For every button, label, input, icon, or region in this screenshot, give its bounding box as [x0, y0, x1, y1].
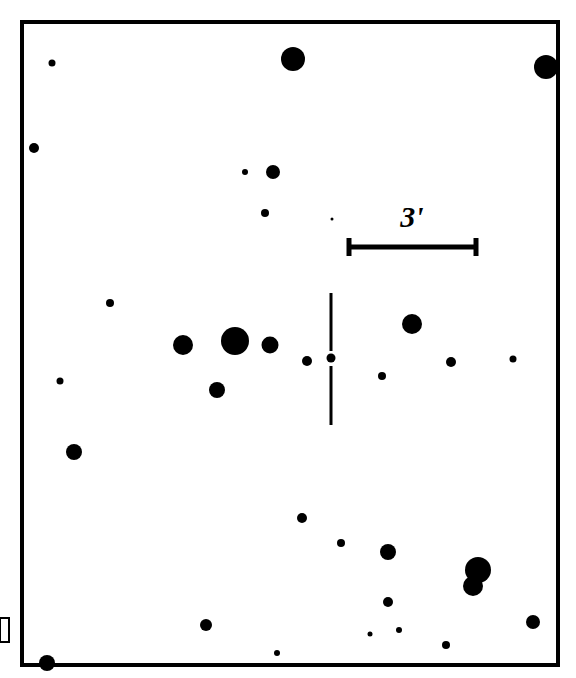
- star-marker: [380, 544, 396, 560]
- star-marker: [297, 513, 307, 523]
- star-marker: [442, 641, 450, 649]
- star-marker: [302, 356, 312, 366]
- finding-chart-canvas: 3': [0, 0, 576, 678]
- star-marker: [510, 356, 517, 363]
- star-marker: [378, 372, 386, 380]
- scale-bar-label: 3': [399, 200, 423, 233]
- star-marker: [29, 143, 39, 153]
- star-marker: [337, 539, 345, 547]
- star-marker: [106, 299, 114, 307]
- star-marker: [173, 335, 193, 355]
- star-marker: [57, 378, 64, 385]
- star-marker: [463, 576, 483, 596]
- star-marker: [526, 615, 540, 629]
- star-marker: [368, 632, 373, 637]
- star-marker: [274, 650, 280, 656]
- star-marker: [242, 169, 248, 175]
- star-marker: [281, 47, 305, 71]
- star-marker: [266, 165, 280, 179]
- star-marker: [446, 357, 456, 367]
- star-marker: [261, 209, 269, 217]
- star-marker: [534, 55, 558, 79]
- star-marker: [396, 627, 402, 633]
- star-marker: [331, 218, 334, 221]
- finding-chart-figure: 3': [0, 0, 576, 678]
- star-marker: [66, 444, 82, 460]
- star-marker: [402, 314, 422, 334]
- figure-background: [0, 0, 576, 678]
- star-marker: [49, 60, 56, 67]
- target-object-dot: [327, 354, 336, 363]
- star-marker: [209, 382, 225, 398]
- star-marker: [383, 597, 393, 607]
- star-marker: [200, 619, 212, 631]
- star-marker: [221, 327, 249, 355]
- star-marker: [262, 337, 279, 354]
